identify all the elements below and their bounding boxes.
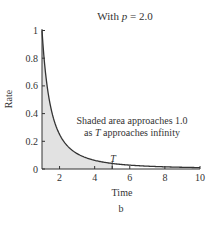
annotation-line-2: as T approaches infinity: [84, 127, 180, 138]
y-tick-label: 0.6: [26, 80, 39, 91]
x-tick-label: 10: [195, 172, 205, 183]
x-tick-label: 4: [92, 172, 97, 183]
x-tick-label: 6: [127, 172, 132, 183]
y-tick-label: 1: [33, 25, 38, 36]
y-axis-label: Rate: [3, 89, 14, 108]
x-tick-label: 8: [162, 172, 167, 183]
x-axis-label: Time: [112, 187, 133, 198]
y-tick-label: 0.4: [26, 108, 39, 119]
y-tick-label: 0.8: [26, 53, 39, 64]
chart-title: With p = 2.0: [97, 10, 153, 22]
panel-label: b: [119, 203, 124, 214]
y-tick-label: 0: [33, 164, 38, 175]
annotation-line-1: Shaded area approaches 1.0: [76, 115, 187, 126]
x-tick-label: 2: [57, 172, 62, 183]
shaded-area: [42, 31, 112, 170]
T-marker-label: T: [110, 153, 117, 164]
y-tick-label: 0.2: [26, 136, 39, 147]
chart: With p = 2.0 00.20.40.60.81 246810 T Sha…: [0, 0, 224, 226]
